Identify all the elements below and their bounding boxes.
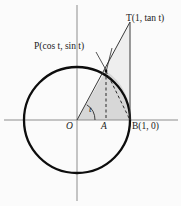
label-point-a: A bbox=[101, 122, 107, 132]
leader-line-p-1 bbox=[96, 52, 106, 70]
label-angle-t: t bbox=[89, 105, 92, 114]
label-point-t: T(1, tan t) bbox=[126, 14, 164, 24]
unit-circle-figure: T(1, tan t) P(cos t, sin t) O A B(1, 0) … bbox=[0, 0, 181, 206]
label-point-b: B(1, 0) bbox=[132, 122, 159, 132]
point-p-dot bbox=[105, 70, 108, 73]
figure-canvas bbox=[0, 0, 181, 206]
label-point-p: P(cos t, sin t) bbox=[34, 42, 84, 52]
label-point-o: O bbox=[66, 122, 73, 132]
